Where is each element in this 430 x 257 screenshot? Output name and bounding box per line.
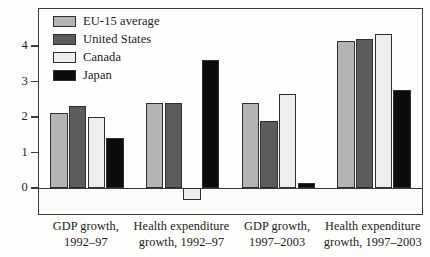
y-axis-tick-label: 0 bbox=[6, 181, 28, 193]
x-axis-category-labels: GDP growth,1992–97Health expendituregrow… bbox=[38, 219, 423, 257]
x-axis-label-group-4: Health expendituregrowth, 1997–2003 bbox=[317, 219, 429, 250]
y-axis-tick bbox=[31, 81, 39, 82]
y-axis-tick-label: 1 bbox=[6, 146, 28, 158]
legend-swatch-canada-icon bbox=[53, 52, 76, 63]
legend-swatch-japan-icon bbox=[53, 70, 76, 81]
grouped-bar-chart: 01234 EU-15 averageUnited StatesCanadaJa… bbox=[0, 0, 430, 257]
y-axis-tick bbox=[31, 45, 39, 46]
y-axis-tick-label: 4 bbox=[6, 39, 28, 51]
legend-item-eu: EU-15 average bbox=[53, 13, 160, 30]
legend-item-us: United States bbox=[53, 31, 160, 48]
y-axis-tick-label: 2 bbox=[6, 110, 28, 122]
legend-label: Canada bbox=[83, 51, 121, 64]
x-axis-label-line-2: growth, 1997–2003 bbox=[317, 235, 429, 251]
y-axis-tick bbox=[31, 116, 39, 117]
legend-item-canada: Canada bbox=[53, 49, 160, 66]
x-axis-label-line-1: Health expenditure bbox=[317, 219, 429, 235]
y-axis-tick bbox=[31, 152, 39, 153]
legend-label: United States bbox=[83, 33, 151, 46]
legend-swatch-eu-icon bbox=[53, 16, 76, 27]
legend-swatch-us-icon bbox=[53, 34, 76, 45]
legend-item-japan: Japan bbox=[53, 67, 160, 84]
below-zero-band bbox=[39, 188, 422, 214]
legend-label: EU-15 average bbox=[83, 15, 160, 28]
chart-legend: EU-15 averageUnited StatesCanadaJapan bbox=[53, 13, 160, 84]
zero-baseline bbox=[38, 188, 423, 189]
y-axis-tick-label: 3 bbox=[6, 75, 28, 87]
legend-label: Japan bbox=[83, 69, 112, 82]
